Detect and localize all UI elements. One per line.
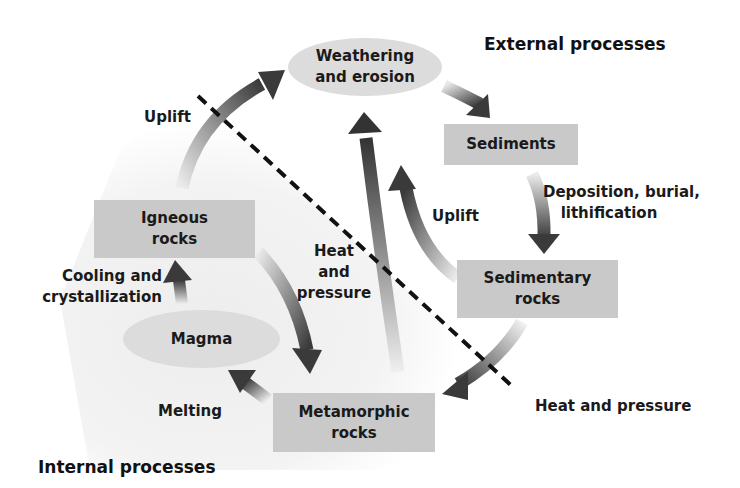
arrow-weathering-sediments	[444, 86, 480, 104]
node-metamorphic-line2: rocks	[331, 423, 377, 444]
node-magma-label: Magma	[171, 329, 233, 350]
arrowhead-uplift-sedimentary	[388, 165, 416, 191]
node-metamorphic-rocks: Metamorphic rocks	[273, 393, 435, 452]
label-melting: Melting	[158, 401, 222, 422]
label-cooling: Cooling and crystallization	[40, 266, 162, 308]
arrowhead-sediments-sedimentary	[528, 234, 560, 254]
node-weathering-line2: and erosion	[315, 67, 415, 88]
node-sedimentary-rocks: Sedimentary rocks	[457, 260, 618, 318]
node-sedimentary-line1: Sedimentary	[484, 268, 592, 289]
label-heat-pressure-center-line1: Heat	[292, 241, 376, 262]
arrowhead-metamorphic-weathering	[348, 112, 382, 134]
node-metamorphic-line1: Metamorphic	[298, 402, 409, 423]
node-weathering-erosion: Weathering and erosion	[288, 38, 442, 96]
label-uplift-sedimentary: Uplift	[432, 206, 479, 227]
node-igneous-line1: Igneous	[141, 208, 208, 229]
node-sediments: Sediments	[444, 124, 578, 165]
label-uplift-igneous: Uplift	[144, 107, 191, 128]
label-heat-pressure-center-line3: pressure	[292, 283, 376, 304]
label-cooling-line1: Cooling and	[40, 266, 162, 287]
label-deposition-line2: lithification	[543, 203, 675, 224]
node-igneous-line2: rocks	[152, 229, 198, 250]
arrow-uplift-sedimentary	[406, 188, 458, 278]
label-heat-pressure-center: Heat and pressure	[292, 241, 376, 304]
label-deposition: Deposition, burial, lithification	[543, 182, 675, 224]
label-heat-pressure-center-line2: and	[292, 262, 376, 283]
node-sediments-label: Sediments	[466, 134, 555, 155]
arrow-cooling	[179, 280, 182, 304]
node-weathering-line1: Weathering	[316, 46, 414, 67]
node-magma: Magma	[123, 310, 280, 368]
label-cooling-line2: crystallization	[40, 287, 162, 308]
node-igneous-rocks: Igneous rocks	[94, 200, 255, 258]
label-deposition-line1: Deposition, burial,	[543, 182, 675, 203]
node-sedimentary-line2: rocks	[515, 289, 561, 310]
heading-internal-processes: Internal processes	[38, 457, 216, 477]
label-heat-pressure-right: Heat and pressure	[535, 396, 691, 417]
heading-external-processes: External processes	[484, 34, 666, 54]
